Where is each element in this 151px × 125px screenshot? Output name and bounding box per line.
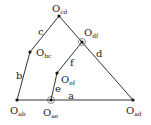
node-bc <box>28 50 31 53</box>
edge-label-a: a <box>68 90 74 101</box>
edge-label-d: d <box>96 48 103 59</box>
edge-label-f: f <box>70 57 75 68</box>
node-ef <box>55 71 58 74</box>
node-label-ef: Oef <box>61 74 76 86</box>
edge-label-c: c <box>38 26 44 37</box>
node-ad <box>131 98 134 101</box>
node-label-ab: Oab <box>10 105 26 117</box>
edge-label-b: b <box>16 70 22 81</box>
diagram-canvas: bcdfeaOcdOdfObcOefOabOaeOad <box>0 0 151 125</box>
node-ae <box>49 98 52 101</box>
node-label-ae: Oae <box>43 107 59 119</box>
node-df <box>80 40 83 43</box>
node-label-cd: Ocd <box>52 3 68 15</box>
node-ab <box>15 98 18 101</box>
node-label-ad: Oad <box>126 105 142 117</box>
node-label-df: Odf <box>84 27 99 39</box>
node-label-bc: Obc <box>36 47 52 59</box>
edge-c <box>30 16 59 52</box>
